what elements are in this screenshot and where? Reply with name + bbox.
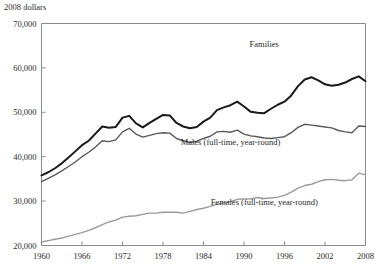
x-tick-label: 1960 bbox=[33, 251, 50, 261]
x-tick-label: 1990 bbox=[236, 251, 253, 261]
series-label-females: Females (full-time, year-round) bbox=[211, 197, 318, 207]
y-tick-label: 70,000 bbox=[13, 19, 36, 29]
x-tick-label: 1972 bbox=[114, 251, 131, 261]
series-label-families: Families bbox=[250, 39, 279, 49]
series-line-males bbox=[42, 124, 366, 181]
x-tick-label: 1984 bbox=[195, 251, 213, 261]
series-line-females bbox=[42, 173, 366, 242]
x-tick-label: 2002 bbox=[317, 251, 334, 261]
plot-frame bbox=[42, 24, 366, 246]
x-tick-label: 1996 bbox=[276, 251, 293, 261]
x-tick-label: 1978 bbox=[155, 251, 172, 261]
line-chart: 20,00030,00040,00050,00060,00070,0001960… bbox=[0, 0, 380, 276]
y-tick-label: 50,000 bbox=[13, 107, 36, 117]
y-tick-label: 40,000 bbox=[13, 152, 36, 162]
y-tick-label: 20,000 bbox=[13, 241, 36, 251]
series-label-males: Males (full-time, year-round) bbox=[181, 137, 281, 147]
x-tick-label: 2008 bbox=[357, 251, 374, 261]
y-tick-label: 30,000 bbox=[13, 196, 36, 206]
y-tick-label: 60,000 bbox=[13, 63, 36, 73]
x-tick-label: 1966 bbox=[74, 251, 91, 261]
chart-container: 2008 dollars 20,00030,00040,00050,00060,… bbox=[0, 0, 380, 276]
